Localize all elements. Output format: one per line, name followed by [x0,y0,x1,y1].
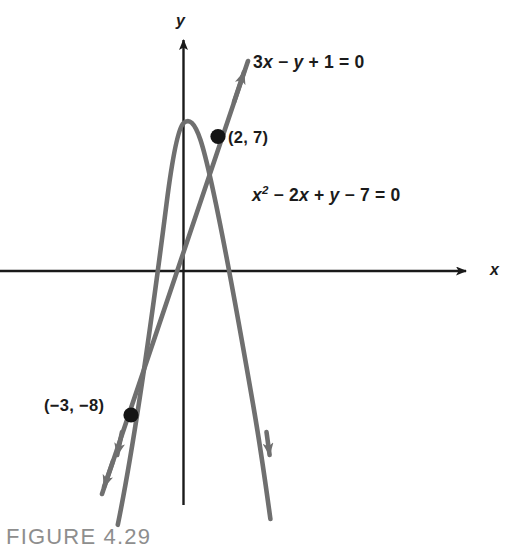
line-lower-arrow [104,461,113,487]
straight-line-curve [102,61,248,494]
parabola-curve [118,121,271,525]
line-equation-variable-y: y [293,52,303,72]
line-equation-label: 3x − y + 1 = 0 [253,54,364,72]
parabola-equation-exponent: 2 [262,184,269,196]
line-equation-variable-x: x [263,52,273,72]
parabola-right-arrow [267,432,270,455]
y-axis-label: y [176,13,185,29]
line-equation-operator-minus: − [273,52,294,72]
point-marker-neg3-neg8 [123,407,138,422]
point-label-neg3-neg8: (−3, −8) [44,397,104,414]
point-label-2-7: (2, 7) [228,129,268,146]
parabola-equation-label: x2 − 2x + y − 7 = 0 [252,187,400,205]
parabola-equation-variable-y: y [330,185,340,205]
line-equation-coefficient: 3 [253,52,263,72]
line-equation-tail: + 1 = 0 [303,52,364,72]
coordinate-plot [0,0,509,557]
parabola-equation-operator-minus: − 2 [269,185,299,205]
parabola-equation-variable-x1: x [252,185,262,205]
line-upper-arrow [234,72,244,102]
figure-caption: FIGURE 4.29 [6,524,151,550]
parabola-equation-tail: − 7 = 0 [339,185,400,205]
figure-container: 3x − y + 1 = 0 x2 − 2x + y − 7 = 0 (2, 7… [0,0,509,557]
x-axis-label: x [490,262,499,278]
parabola-equation-variable-x2: x [299,185,309,205]
parabola-equation-operator-plus: + [309,185,330,205]
point-marker-2-7 [210,129,225,144]
